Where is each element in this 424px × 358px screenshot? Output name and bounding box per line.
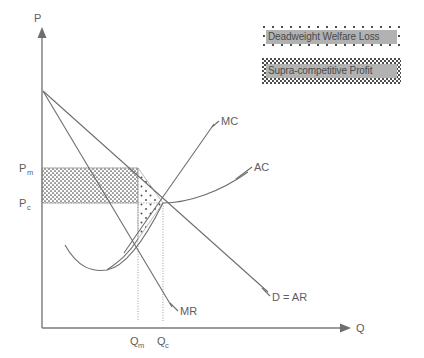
tick-label-quantity-competitive-sub: c [165, 341, 169, 350]
curve-label-average-cost: AC [254, 161, 269, 173]
x-axis-label: Q [356, 322, 365, 334]
curve-label-marginal-revenue: MR [180, 305, 197, 317]
tick-label-price-competitive-sub: c [27, 203, 31, 212]
legend-label-deadweight: Deadweight Welfare Loss [266, 30, 397, 44]
economics-diagram: P Q P m P c Q m Q c MC AC D = AR MR Dead… [0, 0, 424, 358]
tick-label-price-competitive: P [19, 197, 26, 209]
legend-item-supra-profit: Supra-competitive Profit [262, 58, 401, 84]
legend-item-deadweight: Deadweight Welfare Loss [262, 25, 401, 48]
legend-label-supra-profit: Supra-competitive Profit [266, 64, 397, 78]
chart-labels-layer: P Q P m P c Q m Q c MC AC D = AR MR [0, 0, 424, 358]
tick-label-price-monopoly-sub: m [27, 168, 33, 177]
tick-label-price-monopoly: P [19, 162, 26, 174]
tick-label-quantity-monopoly-sub: m [138, 341, 144, 350]
curve-label-demand: D = AR [272, 291, 307, 303]
curve-label-marginal-cost: MC [221, 115, 238, 127]
y-axis-label: P [34, 12, 41, 24]
